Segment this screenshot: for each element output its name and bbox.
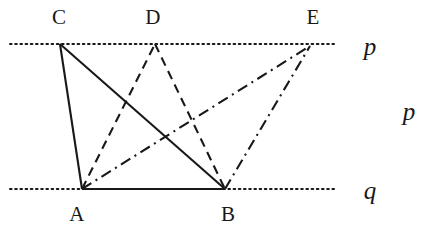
guide-lines-group	[10, 44, 337, 189]
edge-AE	[82, 46, 310, 189]
vertex-label-A: A	[69, 204, 84, 225]
vertex-label-B: B	[221, 204, 235, 225]
vertex-label-C: C	[52, 7, 66, 28]
label-p-right: p	[403, 99, 416, 124]
vertex-label-E: E	[306, 7, 319, 28]
geometry-figure: ABCDEpqp	[0, 0, 427, 228]
line-label-p: p	[364, 34, 377, 59]
edge-DB	[155, 44, 225, 189]
vertex-label-D: D	[145, 7, 160, 28]
edge-CA	[60, 44, 82, 189]
line-label-q: q	[364, 178, 377, 203]
edge-CB	[60, 44, 225, 189]
edge-BE	[225, 46, 310, 189]
edges-group	[60, 44, 310, 189]
